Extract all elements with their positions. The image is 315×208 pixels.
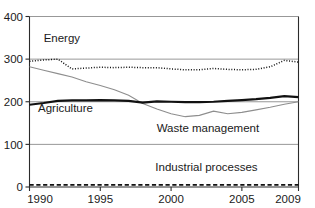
series-label-industrial-processes: Industrial processes bbox=[155, 161, 258, 173]
series-label-energy: Energy bbox=[44, 32, 81, 44]
y-tick-label-0: 0 bbox=[17, 181, 23, 193]
x-tick-label-2005: 2005 bbox=[229, 193, 255, 205]
x-tick-label-2000: 2000 bbox=[158, 193, 184, 205]
x-tick-label-2009: 2009 bbox=[275, 193, 301, 205]
y-tick-label-100: 100 bbox=[4, 139, 23, 151]
series-label-waste-management: Waste management bbox=[157, 122, 260, 134]
chart-canvas: 0100200300400 19901995200020052009 Energ… bbox=[0, 0, 315, 208]
y-tick-label-400: 400 bbox=[4, 11, 23, 23]
series-label-agriculture: Agriculture bbox=[38, 102, 93, 114]
x-tick-label-1995: 1995 bbox=[87, 193, 113, 205]
emissions-line-chart: 0100200300400 19901995200020052009 Energ… bbox=[0, 0, 315, 208]
y-tick-label-200: 200 bbox=[4, 96, 23, 108]
y-tick-label-300: 300 bbox=[4, 53, 23, 65]
x-tick-label-1990: 1990 bbox=[27, 193, 53, 205]
